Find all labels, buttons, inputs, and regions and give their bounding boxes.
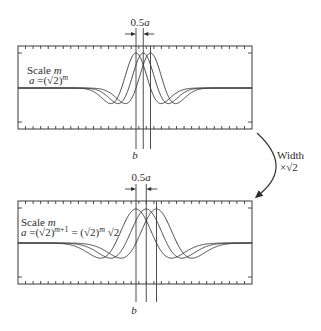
- curved-arrow-icon: [257, 133, 276, 193]
- scale-formula: a =(√2)m+1 = (√2)m √2: [21, 225, 119, 239]
- arrow-left-icon: [143, 32, 148, 36]
- spacing-dimension: [125, 32, 154, 36]
- position-label-b: b: [131, 304, 137, 316]
- arrow-left-icon: [146, 187, 151, 191]
- panel-frame: [18, 46, 252, 129]
- scale-formula: a =(√2)m: [29, 73, 68, 87]
- arrow-right-icon: [131, 187, 136, 191]
- width-label: Width: [277, 149, 305, 161]
- tick-marks: [18, 201, 252, 284]
- panel-scale-m: 0.5a Scalem a =(√2)m b: [18, 16, 252, 161]
- spacing-label: 0.5a: [131, 171, 151, 183]
- arrow-right-icon: [131, 32, 136, 36]
- panel-scale-m-plus-1: 0.5a Scalem a =(√2)m+1 = (√2)m √2 b: [18, 171, 252, 316]
- spacing-dimension: [125, 187, 157, 191]
- panel-frame: [18, 201, 252, 284]
- width-factor-label: ×√2: [280, 161, 298, 173]
- wavelet-scaling-diagram: 0.5a Scalem a =(√2)m b Width ×√2 0.5a Sc…: [0, 0, 321, 331]
- spacing-label: 0.5a: [130, 16, 150, 28]
- tick-marks: [18, 46, 252, 129]
- position-label-b: b: [132, 149, 138, 161]
- width-transition: Width ×√2: [255, 133, 305, 198]
